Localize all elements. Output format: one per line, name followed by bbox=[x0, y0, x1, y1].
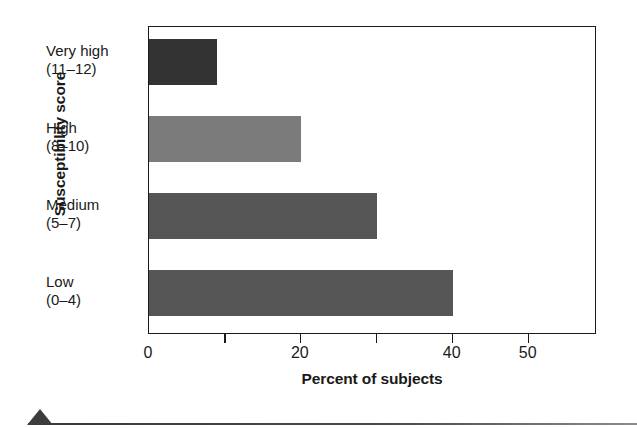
category-label-name: High bbox=[46, 119, 138, 137]
x-axis-title: Percent of subjects bbox=[148, 370, 596, 388]
x-axis-tick-labels: 0204050 bbox=[0, 343, 637, 365]
category-label: Very high(11–12) bbox=[46, 42, 138, 78]
bar-chart-figure: Susceptibility score Very high(11–12)Hig… bbox=[0, 0, 637, 428]
x-axis-tick-label: 50 bbox=[519, 343, 537, 363]
category-label-range: (5–7) bbox=[46, 214, 138, 232]
category-label-range: (11–12) bbox=[46, 60, 138, 78]
triangle-marker-icon bbox=[27, 409, 53, 425]
bar bbox=[149, 39, 217, 85]
category-label-name: Low bbox=[46, 273, 138, 291]
x-axis-tick bbox=[224, 334, 226, 343]
category-label: Medium(5–7) bbox=[46, 196, 138, 232]
category-label-range: (8–10) bbox=[46, 137, 138, 155]
bar bbox=[149, 270, 453, 316]
category-label-name: Very high bbox=[46, 42, 138, 60]
bottom-decoration bbox=[0, 413, 637, 428]
x-axis-ticks bbox=[148, 334, 596, 343]
x-axis-tick bbox=[300, 334, 302, 343]
category-label: High(8–10) bbox=[46, 119, 138, 155]
category-label-range: (0–4) bbox=[46, 291, 138, 309]
x-axis-tick bbox=[452, 334, 454, 343]
category-label-name: Medium bbox=[46, 196, 138, 214]
x-axis-tick-label: 0 bbox=[144, 343, 153, 363]
category-label: Low(0–4) bbox=[46, 273, 138, 309]
bar bbox=[149, 116, 301, 162]
bar bbox=[149, 193, 377, 239]
x-axis-tick-label: 20 bbox=[291, 343, 309, 363]
horizontal-rule bbox=[28, 423, 637, 425]
category-axis-labels: Very high(11–12)High(8–10)Medium(5–7)Low… bbox=[52, 26, 144, 334]
x-axis-tick bbox=[376, 334, 378, 343]
x-axis-tick bbox=[528, 334, 530, 343]
x-axis-tick-label: 40 bbox=[443, 343, 461, 363]
plot-area bbox=[148, 26, 596, 334]
